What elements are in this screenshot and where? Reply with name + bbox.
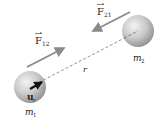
svg-text:1: 1	[33, 112, 37, 118]
separation-label: r	[83, 65, 88, 74]
svg-text:21: 21	[104, 11, 112, 18]
force-f21-label: F 21	[97, 3, 112, 18]
mass-2-label: m 2	[133, 53, 145, 64]
force-f12-label: F 12	[35, 32, 50, 47]
mass-1-label: m 1	[25, 107, 37, 118]
svg-text:12: 12	[42, 40, 50, 47]
gravitation-diagram: F 12 F 21 r u r m 1 m 2	[0, 0, 165, 124]
svg-text:2: 2	[141, 58, 145, 64]
svg-text:F: F	[35, 35, 42, 46]
force-f12-arrow	[27, 48, 64, 67]
svg-text:F: F	[97, 6, 104, 17]
